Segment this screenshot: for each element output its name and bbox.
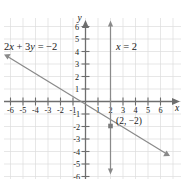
- y-tick-label: 2: [75, 73, 79, 82]
- x-tick-label: 6: [158, 106, 162, 115]
- y-tick-label: 1: [75, 85, 79, 94]
- line-arrow-start-icon: [108, 21, 113, 27]
- equation-label-line-b: x = 2: [115, 41, 137, 52]
- y-tick-label: 6: [75, 23, 79, 32]
- line-arrow-start-icon: [4, 54, 11, 60]
- y-tick-label: -2: [73, 123, 80, 132]
- x-tick-label: -5: [20, 106, 27, 115]
- equation-label-line-a: 2x + 3y = −2: [4, 41, 57, 52]
- y-tick-label: -5: [73, 160, 80, 169]
- x-tick-label: -4: [32, 106, 39, 115]
- x-tick-label: -3: [45, 106, 52, 115]
- intersection-point-marker: [108, 124, 113, 129]
- y-tick-label: -3: [73, 135, 80, 144]
- x-tick-label: 5: [146, 106, 150, 115]
- y-tick-label: -4: [73, 148, 80, 157]
- intersection-point-label: (2, −2): [116, 116, 142, 127]
- x-tick-label: -2: [57, 106, 64, 115]
- graph-canvas: -6 -5 -4 -3 -2 -1 1 2 3 4 5 6 1 2 3 4 5 …: [0, 0, 185, 179]
- y-tick-label: -1: [73, 110, 80, 119]
- y-tick-label: -6: [73, 173, 80, 179]
- line-arrow-end-icon: [108, 169, 113, 175]
- coordinate-plane-figure: -6 -5 -4 -3 -2 -1 1 2 3 4 5 6 1 2 3 4 5 …: [0, 0, 185, 179]
- y-tick-label: 4: [75, 48, 79, 57]
- x-tick-label: -6: [7, 106, 14, 115]
- x-tick-label: 4: [133, 106, 137, 115]
- y-tick-label: 5: [75, 35, 79, 44]
- x-tick-label: 3: [121, 106, 125, 115]
- y-tick-label: 3: [75, 60, 79, 69]
- y-axis-name-label: y: [76, 13, 82, 23]
- x-axis-name-label: x: [174, 103, 180, 113]
